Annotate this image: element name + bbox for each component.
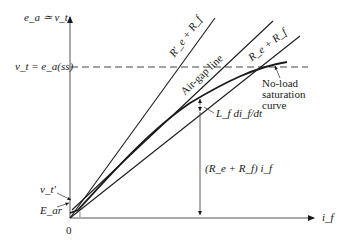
inductive-drop-label: L_f di_f/dt (216, 108, 262, 119)
residual-voltage-label: E_ar (40, 205, 62, 216)
curve-label-line-3: curve (262, 100, 305, 111)
vt-prime-label: v_t' (40, 184, 56, 195)
saturation-curve-label: No-load saturation curve (262, 78, 305, 111)
steady-state-label: v_t = e_a(ss) (15, 61, 73, 72)
vt-prime-leader (57, 193, 71, 200)
origin-label: 0 (66, 225, 72, 236)
saturation-curve (70, 62, 287, 213)
y-axis-label: e_a ≃ v_t (24, 12, 68, 23)
resistive-drop-label: (R_e + R_f) i_f (205, 163, 272, 174)
x-axis-label: i_f (322, 212, 334, 223)
critical-resistance-line (70, 18, 215, 218)
field-resistance-line (70, 36, 300, 218)
